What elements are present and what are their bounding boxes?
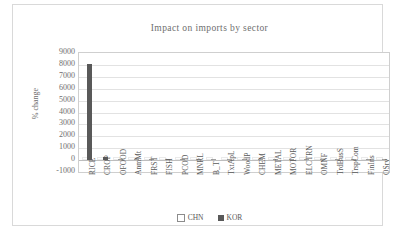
bar-group: [141, 53, 157, 172]
chart-title: Impact on imports by sector: [13, 23, 393, 33]
y-tick-label: 6000: [41, 84, 75, 92]
y-tick-label: 3000: [41, 119, 75, 127]
x-tick-label-b_t: B_T: [212, 161, 221, 175]
chart-frame: Impact on imports by sector % change 900…: [12, 4, 383, 226]
y-tick-label: 9000: [41, 48, 75, 56]
y-tick-label: 7000: [41, 72, 75, 80]
x-tick-label-omnf: OMNF: [320, 153, 329, 175]
y-tick-label: 5000: [41, 96, 75, 104]
x-tick-label-trdbuss: TrdBusS: [336, 148, 345, 175]
x-tick-label-anmmt: AnmMt: [134, 151, 143, 175]
y-tick-label: 4000: [41, 108, 75, 116]
bar-kor-rice[interactable]: [87, 64, 92, 160]
x-tick-label-finins: FinIns: [367, 155, 376, 175]
x-tick-label-ofood: OFOOD: [119, 149, 128, 175]
y-tick-label: 1000: [41, 143, 75, 151]
x-tick-label-fish: FISH: [165, 158, 174, 175]
bar-group: [358, 53, 374, 172]
x-tick-label-txtapl: TxtApL: [227, 150, 236, 175]
x-tick-label-mnrl: MNRL: [196, 153, 205, 175]
legend-item-chn[interactable]: CHN: [177, 213, 204, 222]
x-tick-label-osrv: OSrv: [382, 159, 391, 175]
y-tick-label: 2000: [41, 131, 75, 139]
x-tick-label-crop: CROP: [103, 155, 112, 175]
x-tick-label-pcod: PCOD: [181, 155, 190, 175]
x-tick-label-metal: METAL: [274, 149, 283, 175]
chart-legend: CHNKOR: [13, 213, 393, 222]
y-tick-label: 8000: [41, 60, 75, 68]
bar-group: [157, 53, 173, 172]
legend-item-kor[interactable]: KOR: [218, 213, 243, 222]
y-axis-tick-labels: 9000800070006000500040003000200010000-10…: [39, 52, 75, 173]
x-tick-label-woodp: WoodP: [243, 153, 252, 175]
x-tick-label-frst: FRST: [150, 157, 159, 175]
legend-label: CHN: [188, 213, 204, 222]
x-tick-label-elctrn: ELCTRN: [305, 145, 314, 175]
x-tick-label-chem: CHEM: [258, 153, 267, 175]
bar-group: [203, 53, 219, 172]
y-tick-label: 0: [41, 155, 75, 163]
bar-group: [374, 53, 390, 172]
bar-group: [79, 53, 95, 172]
legend-swatch-kor-icon: [218, 215, 224, 221]
legend-label: KOR: [227, 213, 243, 222]
y-tick-label: -1000: [41, 167, 75, 175]
legend-swatch-chn-icon: [177, 214, 185, 222]
x-tick-label-motor: MOTOR: [289, 148, 298, 175]
x-tick-label-rice: RICE: [88, 158, 97, 175]
bar-kor-b_t[interactable]: [211, 159, 216, 160]
x-tick-label-trspcom: TrspCom: [351, 146, 360, 175]
